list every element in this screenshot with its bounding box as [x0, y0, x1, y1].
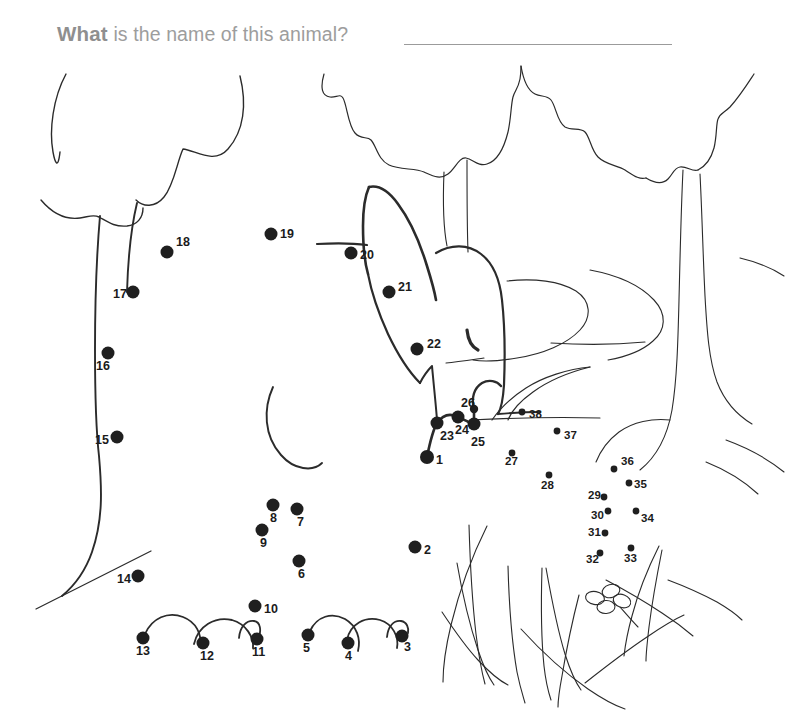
- grass-blade-3: [457, 563, 494, 685]
- tree-left-trunk-right: [127, 203, 137, 292]
- dot-31[interactable]: [602, 530, 609, 537]
- dot-1[interactable]: [420, 450, 434, 464]
- hill-curve-lower-right-2: [706, 462, 758, 494]
- grass-blade-14: [585, 615, 684, 683]
- tree-left: [41, 74, 244, 596]
- dot-28[interactable]: [546, 472, 553, 479]
- dot-label-35: 35: [634, 479, 647, 491]
- tree-right-trunk-right: [700, 174, 752, 424]
- dot-10[interactable]: [249, 600, 262, 613]
- grass-blade-13: [668, 580, 742, 620]
- dot-4[interactable]: [342, 637, 355, 650]
- background-hills: [446, 258, 784, 494]
- dot-label-37: 37: [564, 430, 577, 442]
- dot-29[interactable]: [601, 494, 608, 501]
- dot-label-3: 3: [404, 641, 411, 654]
- dot-7[interactable]: [291, 503, 304, 516]
- grass-blade-9: [521, 629, 625, 709]
- deer-eye: [467, 330, 478, 350]
- deer-chin-curve: [473, 381, 501, 409]
- dot-17[interactable]: [127, 286, 140, 299]
- dot-6[interactable]: [293, 555, 306, 568]
- dot-label-2: 2: [424, 544, 431, 557]
- dot-label-31: 31: [588, 527, 601, 539]
- deer-head-top-line: [317, 243, 367, 245]
- hill-curve-lower-right: [726, 440, 784, 472]
- dot-label-29: 29: [588, 490, 601, 502]
- dot-38[interactable]: [519, 409, 526, 416]
- dot-label-18: 18: [176, 236, 190, 249]
- dot-label-11: 11: [252, 646, 265, 659]
- flower: [585, 582, 638, 627]
- dot-37[interactable]: [554, 428, 561, 435]
- dot-label-25: 25: [471, 436, 485, 449]
- tree-right-canopy-upper: [698, 74, 754, 170]
- dot-2[interactable]: [409, 541, 422, 554]
- dot-label-15: 15: [95, 434, 109, 447]
- dot-12[interactable]: [197, 637, 210, 650]
- dot-label-20: 20: [360, 249, 374, 262]
- dot-label-36: 36: [621, 456, 634, 468]
- dot-label-9: 9: [260, 537, 267, 550]
- dot-label-16: 16: [96, 360, 110, 373]
- grass-blade-11: [646, 550, 662, 661]
- dot-5[interactable]: [302, 629, 315, 642]
- dot-19[interactable]: [265, 228, 278, 241]
- dot-18[interactable]: [161, 246, 174, 259]
- grass-blade-7: [546, 568, 581, 690]
- hill-curve-upper: [473, 280, 588, 361]
- tree-center-canopy: [322, 66, 521, 177]
- hill-curve-sweep: [590, 270, 663, 360]
- dot-label-24: 24: [455, 424, 469, 437]
- dot-33[interactable]: [628, 545, 635, 552]
- dot-9[interactable]: [256, 524, 269, 537]
- dot-34[interactable]: [633, 508, 640, 515]
- tree-center: [322, 66, 646, 252]
- dot-label-32: 32: [586, 554, 599, 566]
- dot-label-10: 10: [264, 603, 278, 616]
- dot-label-23: 23: [440, 430, 454, 443]
- dot-label-12: 12: [200, 650, 214, 663]
- dot-label-14: 14: [117, 573, 131, 586]
- dot-14[interactable]: [132, 570, 145, 583]
- dot-label-13: 13: [136, 645, 150, 658]
- tree-right-trunk-left: [640, 170, 683, 470]
- dot-36[interactable]: [611, 466, 618, 473]
- dot-22[interactable]: [411, 343, 424, 356]
- dot-label-17: 17: [113, 288, 127, 301]
- dot-15[interactable]: [111, 431, 124, 444]
- leg-arcs: [145, 615, 408, 651]
- flower-petal-bottom: [597, 600, 616, 614]
- tree-right: [596, 74, 754, 470]
- dot-label-6: 6: [298, 568, 305, 581]
- dot-label-30: 30: [591, 510, 604, 522]
- dot-label-21: 21: [398, 281, 412, 294]
- dot-label-22: 22: [427, 338, 441, 351]
- dot-label-1: 1: [436, 454, 443, 467]
- tree-center-trunk-left: [443, 172, 447, 246]
- dot-label-5: 5: [303, 642, 310, 655]
- dot-label-34: 34: [641, 513, 654, 525]
- dot-label-26: 26: [461, 397, 475, 410]
- dot-25[interactable]: [468, 418, 481, 431]
- deer-ear-right: [436, 246, 505, 414]
- dot-label-28: 28: [541, 480, 554, 492]
- dot-label-33: 33: [624, 553, 637, 565]
- dot-21[interactable]: [383, 286, 396, 299]
- dot-35[interactable]: [626, 480, 633, 487]
- dot-23[interactable]: [431, 417, 444, 430]
- tree-right-canopy: [646, 167, 698, 183]
- tree-left-trunk-left: [62, 216, 101, 596]
- deer-head: [317, 187, 540, 457]
- dot-20[interactable]: [345, 247, 358, 260]
- dot-label-8: 8: [270, 512, 277, 525]
- arc-13-12: [145, 615, 200, 646]
- dot-24[interactable]: [452, 411, 465, 424]
- dot-11[interactable]: [251, 633, 264, 646]
- dot-13[interactable]: [137, 632, 150, 645]
- dot-30[interactable]: [605, 508, 612, 515]
- dot-16[interactable]: [102, 347, 115, 360]
- tree-center-canopy-right: [521, 66, 646, 178]
- dot-label-19: 19: [280, 228, 294, 241]
- dot-8[interactable]: [267, 499, 280, 512]
